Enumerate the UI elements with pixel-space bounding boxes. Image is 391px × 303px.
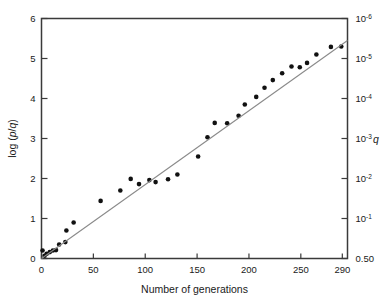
data-point — [280, 71, 285, 76]
data-point — [254, 95, 259, 100]
x-tick-label: 0 — [39, 264, 44, 275]
data-point — [40, 248, 45, 253]
y-right-tick-label: 10-2 — [356, 172, 373, 184]
y-axis-right-title: q — [373, 133, 379, 145]
data-point — [289, 64, 294, 69]
x-tick-label: 250 — [293, 264, 309, 275]
regression-line — [42, 41, 348, 259]
y-right-tick-label: 10-1 — [356, 212, 373, 224]
y-left-tick-label: 3 — [30, 133, 35, 144]
y-right-tick-label: 10-3 — [356, 132, 373, 144]
data-point — [71, 220, 76, 225]
data-point — [314, 52, 319, 57]
y-left-tick-label: 1 — [30, 213, 35, 224]
x-axis-title: Number of generations — [141, 283, 248, 295]
plot-frame — [42, 19, 348, 259]
x-tick-label: 50 — [88, 264, 99, 275]
y-axis-left-title: log (p/q) — [6, 119, 18, 158]
y-left-tick-label: 5 — [30, 53, 35, 64]
data-point — [196, 154, 201, 159]
data-point — [118, 188, 123, 193]
y-right-tick-label: 10-4 — [356, 92, 373, 104]
data-point — [271, 78, 276, 83]
figure-panel: 050100150200250290Number of generations0… — [0, 0, 391, 303]
data-point — [297, 65, 302, 70]
data-point — [243, 102, 248, 107]
data-point — [64, 228, 69, 233]
y-right-tick-label: 10-6 — [356, 12, 373, 24]
scatter-plot: 050100150200250290Number of generations0… — [0, 0, 391, 303]
data-point — [329, 45, 334, 50]
data-point — [305, 61, 310, 66]
y-right-tick-label: 10-5 — [356, 52, 373, 64]
data-point — [175, 172, 180, 177]
data-point — [128, 177, 133, 182]
y-left-tick-label: 2 — [30, 173, 35, 184]
y-left-tick-label: 6 — [30, 13, 35, 24]
y-left-tick-label: 0 — [30, 253, 35, 264]
x-tick-label: 100 — [137, 264, 153, 275]
x-tick-label: 200 — [241, 264, 257, 275]
x-axis: 050100150200250290Number of generations — [39, 254, 350, 295]
data-point — [166, 177, 171, 182]
x-tick-label: 290 — [334, 264, 350, 275]
data-series-group — [40, 41, 347, 259]
data-point — [98, 199, 103, 204]
data-point — [137, 182, 142, 187]
x-tick-label: 150 — [189, 264, 205, 275]
data-point — [153, 180, 158, 185]
y-right-tick-label: 0.50 — [356, 253, 375, 264]
y-left-tick-label: 4 — [30, 93, 35, 104]
data-point — [212, 121, 217, 126]
data-point — [262, 85, 267, 90]
